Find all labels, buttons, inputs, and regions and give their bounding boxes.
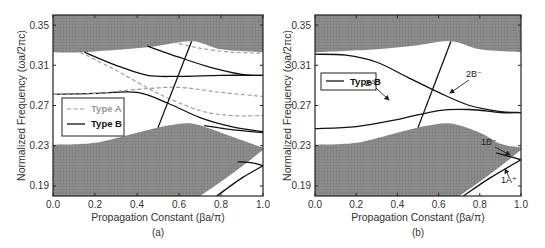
- y-tick-label: 0.27: [292, 100, 312, 111]
- y-axis-label: Normalized Frequency (ωa/2πc): [15, 30, 27, 181]
- y-tick-label: 0.35: [30, 20, 50, 31]
- chart-panel-b: 0.00.20.40.60.81.00.190.230.270.310.35Pr…: [281, 15, 528, 238]
- photonic-band-region: [53, 15, 263, 53]
- x-tick-label: 0.0: [46, 199, 60, 210]
- photonic-band-region: [315, 15, 521, 52]
- plot-area: [315, 15, 521, 196]
- x-axis-label: Propagation Constant (βa/π): [351, 211, 485, 223]
- band-diagram-figure: 0.00.20.40.60.81.00.190.230.270.310.35Pr…: [0, 0, 545, 248]
- legend-a: Type AType B: [62, 98, 124, 136]
- series-light-line: [158, 41, 192, 127]
- y-tick-label: 0.31: [292, 60, 312, 71]
- y-tick-label: 0.19: [30, 180, 50, 191]
- x-tick-label: 0.8: [473, 199, 487, 210]
- y-tick-label: 0.23: [30, 140, 50, 151]
- chart-panel-a: 0.00.20.40.60.81.00.190.230.270.310.35Pr…: [15, 15, 270, 238]
- y-tick-label: 0.35: [292, 20, 312, 31]
- annotation-arrow: [376, 88, 389, 100]
- series-2a-: [315, 109, 521, 128]
- legend-type-a: Type A: [91, 103, 122, 114]
- y-tick-label: 0.23: [292, 140, 312, 151]
- x-axis-label: Propagation Constant (βa/π): [91, 211, 225, 223]
- x-tick-label: 0.2: [349, 199, 363, 210]
- legend-type-b: Type B: [91, 118, 122, 129]
- x-tick-label: 0.4: [390, 199, 404, 210]
- x-tick-label: 1.0: [514, 199, 528, 210]
- panel-label: (a): [152, 227, 164, 238]
- x-tick-label: 0.6: [432, 199, 446, 210]
- annotation-arrow: [450, 80, 469, 93]
- x-tick-label: 0.4: [130, 199, 144, 210]
- annotation-label: 2A⁺: [365, 78, 381, 88]
- annotation-label: 2B⁻: [466, 69, 482, 79]
- series-type-a-mode-2: [53, 87, 263, 96]
- y-axis-label: Normalized Frequency (ωa/2πc): [281, 30, 293, 181]
- x-tick-label: 0.0: [308, 199, 322, 210]
- y-tick-label: 0.19: [292, 180, 312, 191]
- x-tick-label: 0.8: [214, 199, 228, 210]
- y-tick-label: 0.27: [30, 100, 50, 111]
- y-tick-label: 0.31: [30, 60, 50, 71]
- x-tick-label: 0.2: [88, 199, 102, 210]
- annotation-label: 1B⁻: [481, 137, 497, 147]
- x-tick-label: 1.0: [256, 199, 270, 210]
- panel-label: (b): [412, 227, 424, 238]
- x-tick-label: 0.6: [172, 199, 186, 210]
